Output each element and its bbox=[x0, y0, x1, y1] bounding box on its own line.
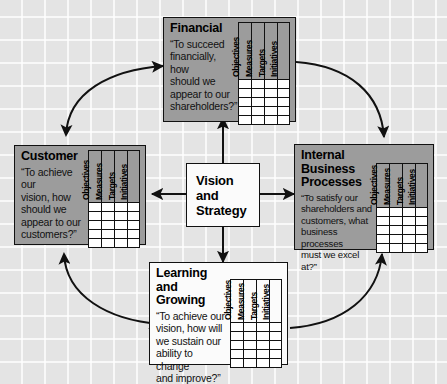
table-cell[interactable] bbox=[88, 230, 101, 239]
table-cell[interactable] bbox=[402, 226, 415, 235]
scorecard-table-internal[interactable]: Objectives Measures Targets Initiatives bbox=[376, 163, 428, 253]
table-cell[interactable] bbox=[269, 341, 282, 350]
table-cell[interactable] bbox=[127, 203, 140, 212]
table-cell[interactable] bbox=[264, 89, 277, 98]
table-cell[interactable] bbox=[230, 350, 243, 359]
table-row[interactable] bbox=[230, 332, 282, 341]
table-cell[interactable] bbox=[238, 89, 251, 98]
table-cell[interactable] bbox=[114, 230, 127, 239]
table-cell[interactable] bbox=[277, 89, 290, 98]
table-cell[interactable] bbox=[101, 221, 114, 230]
table-cell[interactable] bbox=[277, 107, 290, 116]
table-cell[interactable] bbox=[269, 332, 282, 341]
table-cell[interactable] bbox=[230, 341, 243, 350]
table-cell[interactable] bbox=[230, 359, 243, 368]
table-cell[interactable] bbox=[389, 226, 402, 235]
table-cell[interactable] bbox=[88, 212, 101, 221]
table-cell[interactable] bbox=[127, 221, 140, 230]
table-cell[interactable] bbox=[277, 98, 290, 107]
panel-internal-business-processes[interactable]: Internal Business Processes “To satisfy … bbox=[294, 144, 434, 250]
scorecard-table-financial[interactable]: Objectives Measures Targets Initiatives bbox=[238, 22, 290, 125]
table-cell[interactable] bbox=[127, 239, 140, 248]
table-cell[interactable] bbox=[251, 89, 264, 98]
table-cell[interactable] bbox=[264, 107, 277, 116]
table-row[interactable] bbox=[238, 116, 290, 125]
table-row[interactable] bbox=[238, 98, 290, 107]
table-row[interactable] bbox=[88, 212, 140, 221]
table-row[interactable] bbox=[88, 203, 140, 212]
table-cell[interactable] bbox=[402, 217, 415, 226]
table-row[interactable] bbox=[238, 80, 290, 89]
table-cell[interactable] bbox=[256, 341, 269, 350]
table-cell[interactable] bbox=[269, 350, 282, 359]
table-cell[interactable] bbox=[376, 235, 389, 244]
table-cell[interactable] bbox=[114, 239, 127, 248]
table-row[interactable] bbox=[88, 221, 140, 230]
table-row[interactable] bbox=[230, 323, 282, 332]
table-cell[interactable] bbox=[415, 235, 428, 244]
table-cell[interactable] bbox=[264, 98, 277, 107]
table-cell[interactable] bbox=[251, 80, 264, 89]
table-cell[interactable] bbox=[256, 359, 269, 368]
table-cell[interactable] bbox=[277, 80, 290, 89]
table-cell[interactable] bbox=[230, 323, 243, 332]
table-cell[interactable] bbox=[251, 107, 264, 116]
table-cell[interactable] bbox=[243, 332, 256, 341]
table-cell[interactable] bbox=[127, 230, 140, 239]
table-cell[interactable] bbox=[269, 323, 282, 332]
table-cell[interactable] bbox=[114, 203, 127, 212]
table-row[interactable] bbox=[376, 208, 428, 217]
table-cell[interactable] bbox=[88, 203, 101, 212]
table-cell[interactable] bbox=[101, 239, 114, 248]
table-cell[interactable] bbox=[101, 212, 114, 221]
table-cell[interactable] bbox=[402, 244, 415, 253]
table-row[interactable] bbox=[376, 235, 428, 244]
table-row[interactable] bbox=[88, 230, 140, 239]
table-cell[interactable] bbox=[269, 359, 282, 368]
table-row[interactable] bbox=[230, 359, 282, 368]
table-cell[interactable] bbox=[256, 332, 269, 341]
table-cell[interactable] bbox=[114, 221, 127, 230]
table-cell[interactable] bbox=[101, 203, 114, 212]
table-cell[interactable] bbox=[389, 208, 402, 217]
table-row[interactable] bbox=[238, 107, 290, 116]
panel-learning-and-growing[interactable]: Learning and Growing “To achieve our vis… bbox=[149, 262, 288, 365]
panel-financial[interactable]: Financial “To succeed financially, how s… bbox=[163, 17, 296, 122]
center-vision-and-strategy[interactable]: Vision and Strategy bbox=[186, 163, 260, 227]
table-cell[interactable] bbox=[389, 244, 402, 253]
table-cell[interactable] bbox=[114, 212, 127, 221]
table-cell[interactable] bbox=[243, 359, 256, 368]
table-cell[interactable] bbox=[376, 244, 389, 253]
panel-customer[interactable]: Customer “To achieve our vision, how sho… bbox=[14, 145, 146, 245]
table-cell[interactable] bbox=[264, 80, 277, 89]
table-cell[interactable] bbox=[415, 208, 428, 217]
table-cell[interactable] bbox=[238, 107, 251, 116]
table-cell[interactable] bbox=[243, 341, 256, 350]
table-cell[interactable] bbox=[243, 323, 256, 332]
table-cell[interactable] bbox=[238, 98, 251, 107]
table-cell[interactable] bbox=[389, 235, 402, 244]
table-cell[interactable] bbox=[88, 221, 101, 230]
table-cell[interactable] bbox=[101, 230, 114, 239]
table-row[interactable] bbox=[376, 226, 428, 235]
table-cell[interactable] bbox=[415, 226, 428, 235]
table-cell[interactable] bbox=[256, 350, 269, 359]
table-cell[interactable] bbox=[376, 226, 389, 235]
table-cell[interactable] bbox=[230, 332, 243, 341]
table-row[interactable] bbox=[230, 350, 282, 359]
table-cell[interactable] bbox=[376, 208, 389, 217]
table-cell[interactable] bbox=[256, 323, 269, 332]
table-cell[interactable] bbox=[243, 350, 256, 359]
table-row[interactable] bbox=[376, 217, 428, 226]
table-cell[interactable] bbox=[376, 217, 389, 226]
scorecard-table-learning[interactable]: Objectives Measures Targets Initiatives bbox=[230, 279, 282, 368]
table-cell[interactable] bbox=[238, 116, 251, 125]
table-cell[interactable] bbox=[251, 116, 264, 125]
table-cell[interactable] bbox=[402, 208, 415, 217]
table-cell[interactable] bbox=[88, 239, 101, 248]
table-cell[interactable] bbox=[389, 217, 402, 226]
table-row[interactable] bbox=[238, 89, 290, 98]
table-cell[interactable] bbox=[415, 217, 428, 226]
table-cell[interactable] bbox=[277, 116, 290, 125]
table-row[interactable] bbox=[230, 341, 282, 350]
